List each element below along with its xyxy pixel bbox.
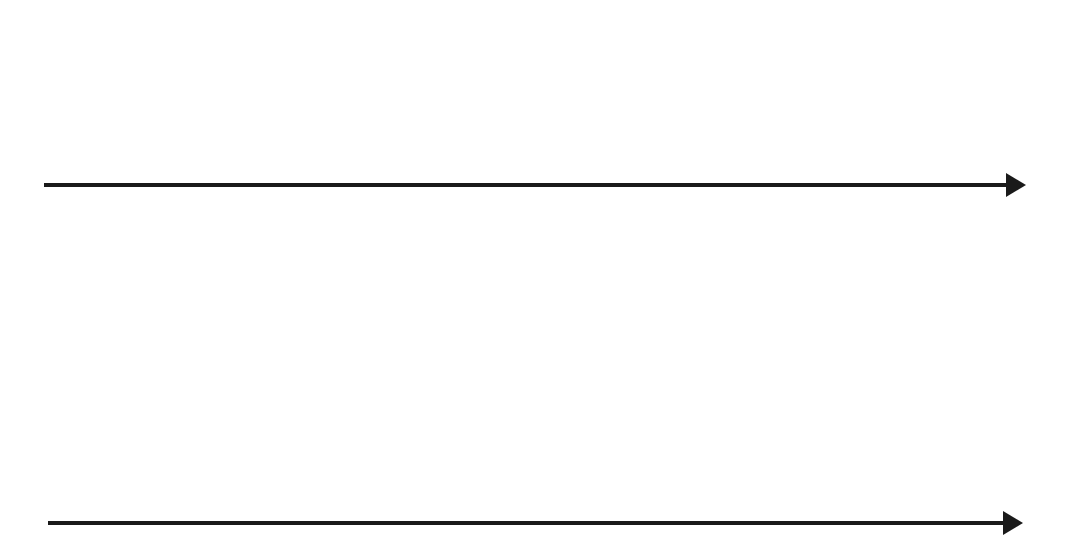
bottom-axis xyxy=(48,511,1023,535)
top-stem-panel xyxy=(44,173,1026,197)
top-axis-arrowhead-icon xyxy=(1006,173,1026,197)
bottom-axis-arrowhead-icon xyxy=(1003,511,1023,535)
figure-root xyxy=(0,0,1065,551)
top-axis xyxy=(44,173,1026,197)
diagram-canvas xyxy=(0,0,1065,551)
bottom-bar-panel xyxy=(48,511,1023,535)
